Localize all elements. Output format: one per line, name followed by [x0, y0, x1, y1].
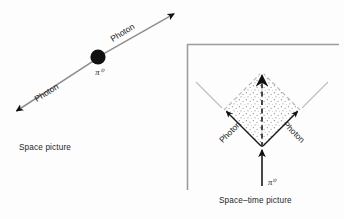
spacetime-stipple-fill: [220, 68, 306, 152]
spacetime-picture-caption: Space–time picture: [219, 196, 292, 205]
space-pion-vertex-dot: [90, 49, 105, 64]
space-picture-caption: Space picture: [19, 143, 71, 152]
light-cone-extension-left: [196, 82, 222, 108]
spacetime-picture-group: Photon Photon π⁰: [187, 44, 339, 190]
space-picture-group: Photon Photon π⁰: [17, 14, 175, 111]
light-cone-extension-right: [302, 82, 328, 108]
physics-diagram-svg: Photon Photon π⁰: [0, 0, 344, 219]
space-photon-label-right: Photon: [109, 21, 137, 44]
spacetime-photon-label-left: Photon: [217, 119, 243, 145]
figure-root: Photon Photon π⁰: [0, 0, 344, 219]
spacetime-photon-label-right: Photon: [281, 119, 307, 145]
space-photon-label-left: Photon: [33, 81, 61, 104]
space-pion-label: π⁰: [95, 67, 104, 77]
spacetime-pion-label: π⁰: [268, 177, 277, 187]
